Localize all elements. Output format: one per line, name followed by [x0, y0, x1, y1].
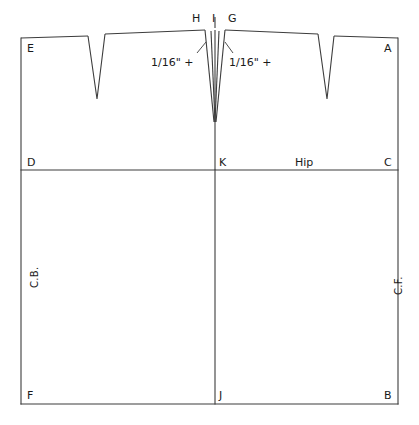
vertex-label-k: K	[219, 157, 226, 168]
left-dart-amount-label: 1/16" +	[151, 57, 193, 68]
center-back-label: C.B.	[30, 267, 40, 288]
waistline-back-inner	[105, 30, 205, 34]
right-dart-amount-label: 1/16" +	[229, 57, 271, 68]
vertex-label-b: B	[384, 390, 392, 401]
pattern-diagram: H I G E A D K C Hip F J B 1/16" + 1/16" …	[0, 0, 419, 425]
waistline-front-inner	[225, 30, 318, 34]
vertex-label-g: G	[228, 13, 237, 24]
vertex-label-e: E	[27, 43, 34, 54]
waistline-back-outer	[21, 36, 88, 38]
vertex-label-i: I	[212, 13, 215, 24]
front-side-dart	[318, 34, 334, 99]
right-annotation-leader	[225, 42, 233, 53]
vertex-label-j: J	[219, 390, 222, 401]
left-annotation-leader	[197, 42, 206, 53]
vertex-label-d: D	[27, 157, 36, 168]
center-front-label: C.F.	[394, 276, 404, 295]
waistline-front-outer	[334, 36, 398, 38]
vertex-label-h: H	[192, 13, 200, 24]
back-side-dart	[88, 34, 105, 99]
hip-line-label: Hip	[295, 157, 313, 168]
vertex-label-c: C	[384, 157, 392, 168]
vertex-label-f: F	[27, 390, 34, 401]
pattern-drawing-canvas	[0, 0, 419, 425]
vertex-label-a: A	[384, 43, 392, 54]
